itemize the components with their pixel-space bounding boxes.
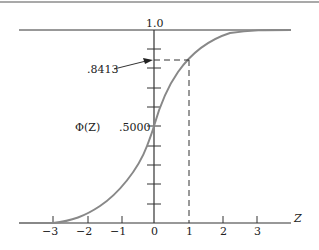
x-tick-label: 3 <box>254 225 261 238</box>
x-tick-label: −3 <box>42 225 58 238</box>
y-axis-name: Φ(Z) <box>75 121 100 134</box>
y-mid-label: .5000 <box>119 121 151 134</box>
annotation-arrow <box>114 61 146 69</box>
y-top-label: 1.0 <box>146 17 164 30</box>
x-tick-label: 1 <box>186 225 193 238</box>
x-tick-label: −2 <box>76 225 92 238</box>
arrow-head-icon <box>143 58 153 64</box>
x-ticks <box>53 216 257 223</box>
y-annot-label: .8413 <box>87 63 119 76</box>
x-axis-name: Z <box>293 212 302 225</box>
x-tick-label: 2 <box>220 225 227 238</box>
x-tick-label: −1 <box>110 225 126 238</box>
normal-cdf-figure: 1.0 .8413 .5000 Φ(Z) Z −3 −2 −1 0 1 2 3 <box>0 0 319 250</box>
x-tick-label: 0 <box>151 225 158 238</box>
